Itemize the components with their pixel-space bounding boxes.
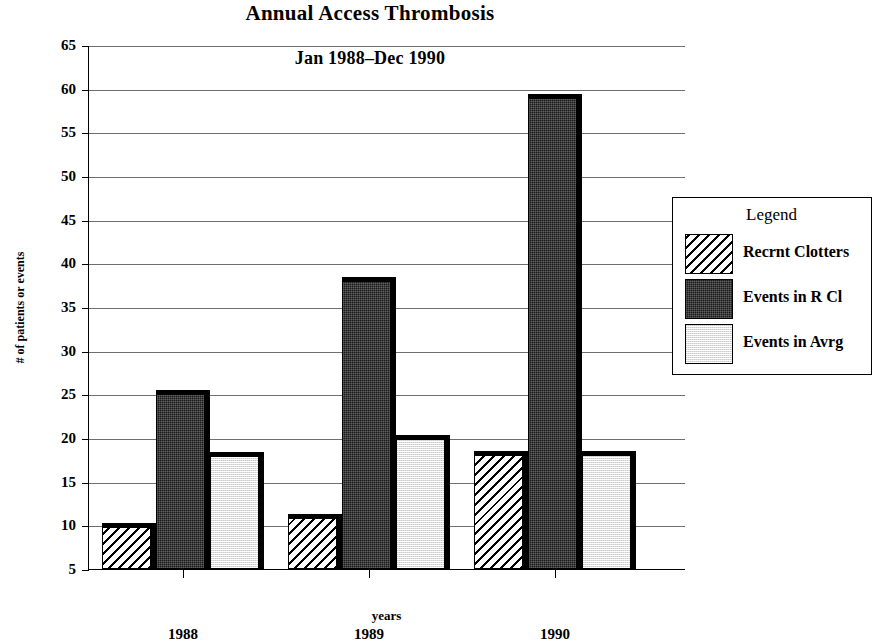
y-tick-label: 15 [36,475,76,490]
y-tick-label: 65 [36,38,76,53]
gridline [88,46,685,47]
bar-1988-recrnt-clotters [102,523,156,569]
y-axis-label: # of patients or events [13,218,28,398]
x-tick-mark [183,570,184,578]
legend-item-recrnt-clotters[interactable]: Recrnt Clotters [685,234,865,274]
bar-1989-recrnt-clotters [288,514,342,569]
bar-1989-events-in-avrg [396,435,450,569]
gridline [88,177,685,178]
legend-swatch-dark [685,279,733,319]
gridline [88,264,685,265]
gridline [88,133,685,134]
y-tick-mark [82,570,89,571]
y-tick-label: 35 [36,300,76,315]
y-tick-label: 30 [36,344,76,359]
gridline [88,221,685,222]
y-tick-label: 60 [36,82,76,97]
y-tick-mark [82,352,89,353]
legend-swatch-light [685,324,733,364]
legend-label: Events in Avrg [743,333,843,351]
y-tick-mark [82,90,89,91]
x-axis-label: years [88,608,685,624]
x-tick-label-1988: 1988 [138,626,228,643]
bar-1988-events-in-r-cl [156,390,210,569]
y-tick-mark [82,395,89,396]
legend-label: Events in R Cl [743,288,842,306]
legend: Legend Recrnt ClottersEvents in R ClEven… [672,197,872,375]
legend-label: Recrnt Clotters [743,243,849,261]
y-tick-mark [82,177,89,178]
y-tick-label: 20 [36,431,76,446]
y-tick-mark [82,46,89,47]
y-tick-label: 40 [36,256,76,271]
y-tick-label: 45 [36,213,76,228]
legend-title: Legend [673,205,870,225]
legend-swatch-hatch [685,234,733,274]
y-tick-mark [82,483,89,484]
y-tick-label: 55 [36,125,76,140]
bar-1990-events-in-avrg [582,451,636,569]
x-tick-label-1990: 1990 [510,626,600,643]
bar-1989-events-in-r-cl [342,277,396,569]
x-axis-line [88,569,685,570]
y-tick-label: 10 [36,518,76,533]
plot-area: 198819891990 [88,46,685,570]
y-tick-mark [82,264,89,265]
x-tick-label-1989: 1989 [324,626,414,643]
y-tick-label: 5 [36,562,76,577]
y-tick-mark [82,308,89,309]
x-tick-mark [555,570,556,578]
y-tick-label: 25 [36,387,76,402]
bar-1990-events-in-r-cl [528,94,582,569]
chart-title: Annual Access Thrombosis [0,0,740,26]
legend-item-events-in-r-cl[interactable]: Events in R Cl [685,279,865,319]
legend-item-events-in-avrg[interactable]: Events in Avrg [685,324,865,364]
bar-1990-recrnt-clotters [474,451,528,569]
x-tick-mark [369,570,370,578]
y-tick-mark [82,526,89,527]
bar-1988-events-in-avrg [210,452,264,569]
y-tick-mark [82,133,89,134]
y-tick-mark [82,221,89,222]
y-tick-mark [82,439,89,440]
gridline [88,90,685,91]
y-tick-label: 50 [36,169,76,184]
